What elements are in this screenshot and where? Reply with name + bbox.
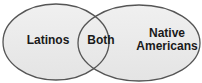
- set-right-label-line2: Americans: [136, 40, 198, 53]
- set-left-label: Latinos: [20, 34, 76, 47]
- set-right-label: Native Americans: [136, 27, 198, 53]
- venn-diagram: Latinos Both Native Americans: [0, 0, 202, 83]
- intersection-label: Both: [84, 34, 118, 47]
